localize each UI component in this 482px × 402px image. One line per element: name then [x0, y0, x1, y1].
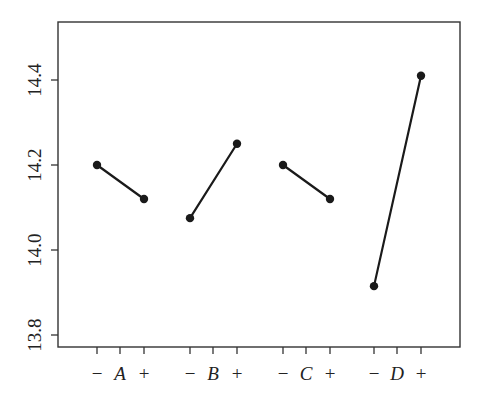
main-effects-chart: 13.814.014.214.4 −A+−B+−C+−D+ — [0, 0, 482, 402]
effect-line-a — [93, 161, 148, 203]
y-tick-label: 14.4 — [24, 63, 45, 97]
x-label-plus: + — [416, 363, 427, 384]
x-axis: −A+−B+−C+−D+ — [92, 347, 427, 384]
x-label-plus: + — [232, 363, 243, 384]
data-point-high — [233, 140, 241, 148]
series-group — [93, 72, 425, 291]
y-tick-label: 14.0 — [24, 233, 45, 266]
x-label-factor: D — [389, 363, 404, 384]
x-label-minus: − — [92, 363, 103, 384]
x-label-plus: + — [325, 363, 336, 384]
plot-frame — [58, 22, 460, 347]
y-axis: 13.814.014.214.4 — [24, 63, 58, 352]
x-label-plus: + — [139, 363, 150, 384]
effect-segment — [374, 76, 421, 286]
x-label-factor: A — [112, 363, 126, 384]
y-tick-label: 14.2 — [24, 148, 45, 181]
data-point-high — [417, 72, 425, 80]
effect-line-c — [279, 161, 334, 203]
data-point-high — [140, 195, 148, 203]
x-label-factor: C — [300, 363, 313, 384]
x-label-minus: − — [278, 363, 289, 384]
data-point-low — [370, 282, 378, 290]
x-label-minus: − — [185, 363, 196, 384]
data-point-high — [326, 195, 334, 203]
effect-segment — [97, 165, 144, 199]
effect-line-b — [186, 140, 241, 223]
x-label-factor: B — [207, 363, 219, 384]
effect-segment — [283, 165, 330, 199]
y-tick-label: 13.8 — [24, 318, 45, 351]
data-point-low — [186, 214, 194, 222]
data-point-low — [279, 161, 287, 169]
effect-line-d — [370, 72, 425, 291]
data-point-low — [93, 161, 101, 169]
x-label-minus: − — [369, 363, 380, 384]
effect-segment — [190, 144, 237, 218]
